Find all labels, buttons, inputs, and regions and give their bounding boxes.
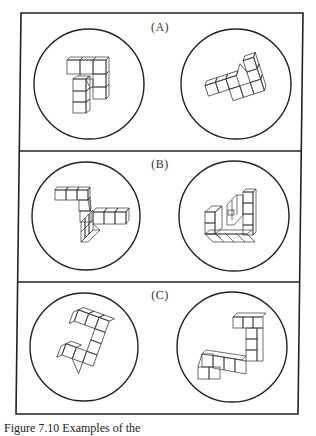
circle-b-left [32, 162, 140, 270]
circle-a-right [181, 29, 291, 139]
panel-label-b: (B) [151, 157, 169, 172]
panel-a [34, 29, 291, 139]
figure-caption: Figure 7.10 Examples of the [4, 421, 140, 436]
circle-c-left [30, 293, 138, 401]
circle-b-right [179, 161, 289, 271]
cube-figure-b-left [55, 187, 129, 242]
cube-figure-c-left [54, 305, 114, 379]
panel-c [30, 292, 287, 402]
cube-figure-b-right [205, 189, 256, 242]
panel-label-c: (C) [151, 288, 169, 303]
cube-figure-a-left [67, 57, 109, 113]
circle-a-left [34, 29, 144, 139]
circle-c-right [177, 292, 287, 402]
figure-frame [16, 13, 303, 414]
panel-b [32, 161, 289, 271]
panel-label-a: (A) [151, 20, 169, 35]
cube-figure-c-right [198, 313, 266, 379]
cube-figure-a-right [200, 53, 267, 108]
